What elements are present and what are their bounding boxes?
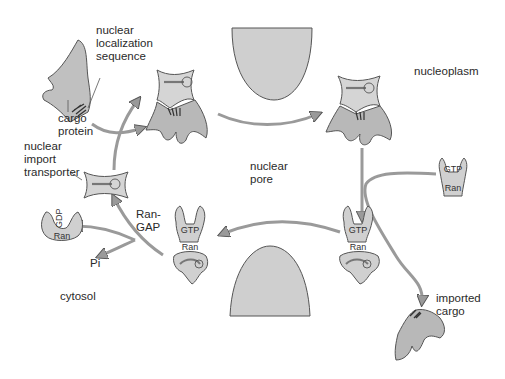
arrow-through-pore-out xyxy=(222,222,340,234)
arrow-ran-gtp-binding xyxy=(365,173,436,302)
pi-label: Pi xyxy=(90,257,100,270)
cytosol-label: cytosol xyxy=(60,290,96,303)
arrow-cargo-to-complex xyxy=(92,124,142,133)
nuclear-pore-label: nuclear pore xyxy=(250,160,288,186)
nucleoplasm-label: nucleoplasm xyxy=(414,65,479,78)
nuclear-pore-bottom xyxy=(230,246,310,316)
ran-gdp-ran-label: Ran xyxy=(54,231,71,241)
ran-gdp-gdp-label: GDP xyxy=(54,208,64,228)
arrow-transporter-to-complex xyxy=(114,100,138,170)
nucleus-ran-label: Ran xyxy=(350,242,367,252)
nuclear-import-diagram: Ran GDP GTP Ran GTP Ran GTP Ran nuclear … xyxy=(0,0,505,379)
arrow-to-ran-gdp xyxy=(76,226,135,240)
ran-gdp-icon: Ran GDP xyxy=(42,208,83,241)
diagram-canvas: Ran GDP GTP Ran GTP Ran GTP Ran xyxy=(0,0,505,379)
cytosol-ran-label: Ran xyxy=(182,242,199,252)
transporter-cargo-complex-2-icon xyxy=(326,76,392,145)
ran-gap-label: Ran- GAP xyxy=(136,208,161,234)
free-gtp-label: GTP xyxy=(444,164,463,174)
free-ran-label: Ran xyxy=(445,183,462,193)
cargo-protein-icon xyxy=(43,40,100,122)
import-transporter-label: nuclear import transporter xyxy=(24,140,80,179)
imported-cargo-label: imported cargo xyxy=(436,292,481,318)
ran-gtp-free-icon: GTP Ran xyxy=(439,158,467,196)
nuclear-pore-top xyxy=(232,28,312,100)
nucleus-gtp-label: GTP xyxy=(349,225,368,235)
cargo-protein-label: cargo protein xyxy=(58,112,93,138)
nls-label: nuclear localization sequence xyxy=(96,24,153,63)
cytosol-gtp-label: GTP xyxy=(181,225,200,235)
arrow-through-pore-in xyxy=(218,114,318,125)
transporter-cargo-complex-1-icon xyxy=(146,70,207,143)
ran-gtp-transporter-complex-cytosol-icon: GTP Ran xyxy=(173,206,207,284)
arrow-to-pi xyxy=(100,240,135,256)
